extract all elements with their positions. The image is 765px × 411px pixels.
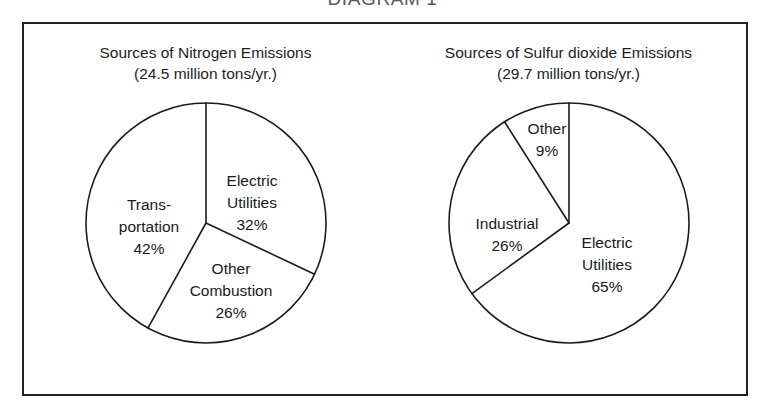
slice-label-line1: Other xyxy=(211,260,250,277)
panel-nitrogen: Sources of Nitrogen Emissions (24.5 mill… xyxy=(24,24,387,394)
slice-label-line2: Utilities xyxy=(227,194,277,211)
slice-label-line1: Industrial xyxy=(475,215,538,232)
slice-label-value: 32% xyxy=(236,216,267,233)
pie-nitrogen-svg: Electric Utilities 32% Other Combustion … xyxy=(81,98,331,348)
diagram-title: DIAGRAM 1 xyxy=(0,0,765,10)
pie-chart-sulfur-dioxide: Electric Utilities 65% Industrial 26% Ot… xyxy=(387,98,750,358)
slice-label-value: 26% xyxy=(491,237,522,254)
slice-label-line1: Electric xyxy=(581,234,632,251)
diagram-frame: Sources of Nitrogen Emissions (24.5 mill… xyxy=(22,22,748,396)
slice-label-value: 65% xyxy=(591,278,622,295)
slice-label-line2: portation xyxy=(118,218,178,235)
slice-label-value: 42% xyxy=(133,240,164,257)
slice-label-value: 9% xyxy=(535,142,558,159)
panel-nitrogen-heading-line1: Sources of Nitrogen Emissions xyxy=(100,44,312,61)
panel-sulfur-dioxide-heading: Sources of Sulfur dioxide Emissions (29.… xyxy=(387,42,750,84)
panel-sulfur-dioxide-heading-line2: (29.7 million tons/yr.) xyxy=(387,63,750,84)
panel-sulfur-dioxide-heading-line1: Sources of Sulfur dioxide Emissions xyxy=(445,44,692,61)
slice-label-line1: Trans- xyxy=(126,196,170,213)
diagram-canvas: DIAGRAM 1 Sources of Nitrogen Emissions … xyxy=(0,0,765,411)
pie-chart-nitrogen: Electric Utilities 32% Other Combustion … xyxy=(24,98,387,358)
panel-nitrogen-heading-line2: (24.5 million tons/yr.) xyxy=(24,63,387,84)
slice-label-line2: Combustion xyxy=(189,282,272,299)
panel-nitrogen-heading: Sources of Nitrogen Emissions (24.5 mill… xyxy=(24,42,387,84)
slice-label-line1: Electric xyxy=(226,172,277,189)
slice-label-line1: Other xyxy=(527,120,566,137)
pie-sulfur-svg: Electric Utilities 65% Industrial 26% Ot… xyxy=(444,98,694,348)
slice-label-line2: Utilities xyxy=(582,256,632,273)
slice-label-value: 26% xyxy=(215,304,246,321)
panel-sulfur-dioxide: Sources of Sulfur dioxide Emissions (29.… xyxy=(387,24,750,394)
